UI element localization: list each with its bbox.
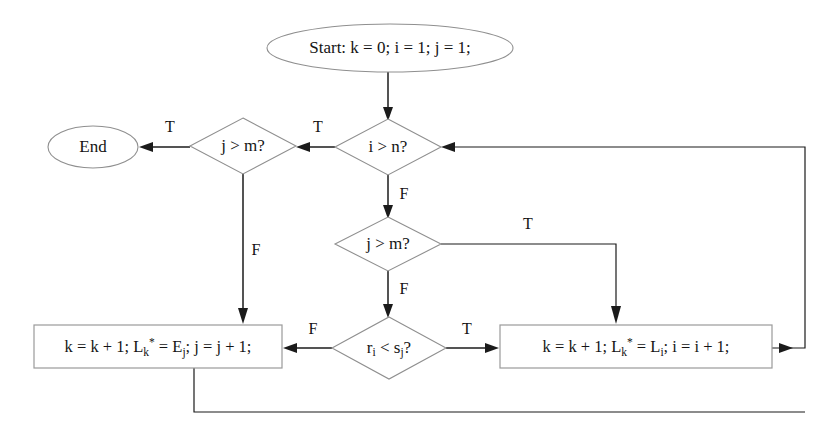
node-proc-left-label: k = k + 1; Lk* = Ej; j = j + 1;: [65, 336, 252, 359]
edge-r-lt-s-true-to-proc-right: T: [446, 320, 499, 353]
flowchart-svg: T T F F T F F: [0, 0, 838, 439]
proc-right-p1: k = k + 1; L: [543, 337, 622, 356]
flowchart-canvas: T T F F T F F: [0, 0, 838, 439]
r-lt-s-end: ?: [404, 338, 412, 357]
node-start-label: Start: k = 0; i = 1; j = 1;: [309, 38, 470, 57]
edge-label-j-gt-m-left-true: T: [165, 118, 175, 135]
node-end-label: End: [79, 137, 107, 156]
node-proc-left[interactable]: k = k + 1; Lk* = Ej; j = j + 1;: [34, 325, 282, 368]
edge-label-j-gt-m-mid-true: T: [523, 215, 533, 232]
node-i-gt-n-label: i > n?: [369, 137, 408, 156]
edge-label-j-gt-m-left-false: F: [252, 241, 261, 258]
r-lt-s-mid: < s: [376, 338, 401, 357]
edge-label-i-gt-n-true: T: [313, 118, 323, 135]
node-j-gt-m-left[interactable]: j > m?: [190, 118, 296, 174]
node-j-gt-m-mid-label: j > m?: [365, 234, 410, 253]
edge-j-gt-m-left-false-to-proc-left: F: [238, 174, 261, 324]
node-j-gt-m-left-label: j > m?: [220, 136, 265, 155]
proc-left-p3: ; j = j + 1;: [186, 337, 252, 356]
node-proc-right[interactable]: k = k + 1; Lk* = Li; i = i + 1;: [500, 325, 772, 368]
edge-r-lt-s-false-to-proc-left: F: [283, 320, 332, 353]
edge-label-r-lt-s-false: F: [309, 320, 318, 337]
edge-proc-right-loop-to-i-gt-n: [441, 142, 805, 353]
edge-i-gt-n-false-to-j-gt-m-mid: F: [383, 175, 409, 219]
edge-j-gt-m-mid-true-to-proc-right: T: [441, 215, 621, 324]
edge-j-gt-m-left-true-to-end: T: [139, 118, 190, 152]
edge-proc-left-loop-to-i-gt-n: [194, 368, 805, 412]
node-start[interactable]: Start: k = 0; i = 1; j = 1;: [267, 24, 513, 72]
proc-left-p1: k = k + 1; L: [65, 337, 144, 356]
edge-i-gt-n-true-to-j-gt-m-left: T: [296, 118, 335, 152]
proc-right-p3: ; i = i + 1;: [664, 337, 730, 356]
proc-left-p2: = E: [155, 337, 183, 356]
node-r-lt-s[interactable]: ri < sj?: [332, 317, 446, 379]
edge-start-to-i-gt-n: [383, 72, 393, 121]
edge-label-r-lt-s-true: T: [462, 320, 472, 337]
edge-j-gt-m-mid-false-to-r-lt-s: F: [383, 271, 409, 318]
edge-label-i-gt-n-false: F: [400, 185, 409, 202]
edge-label-j-gt-m-mid-false: F: [400, 280, 409, 297]
proc-right-p2: = L: [633, 337, 661, 356]
node-j-gt-m-mid[interactable]: j > m?: [335, 217, 441, 271]
node-end[interactable]: End: [48, 126, 138, 168]
node-proc-right-label: k = k + 1; Lk* = Li; i = i + 1;: [543, 336, 730, 358]
node-i-gt-n[interactable]: i > n?: [335, 119, 441, 175]
